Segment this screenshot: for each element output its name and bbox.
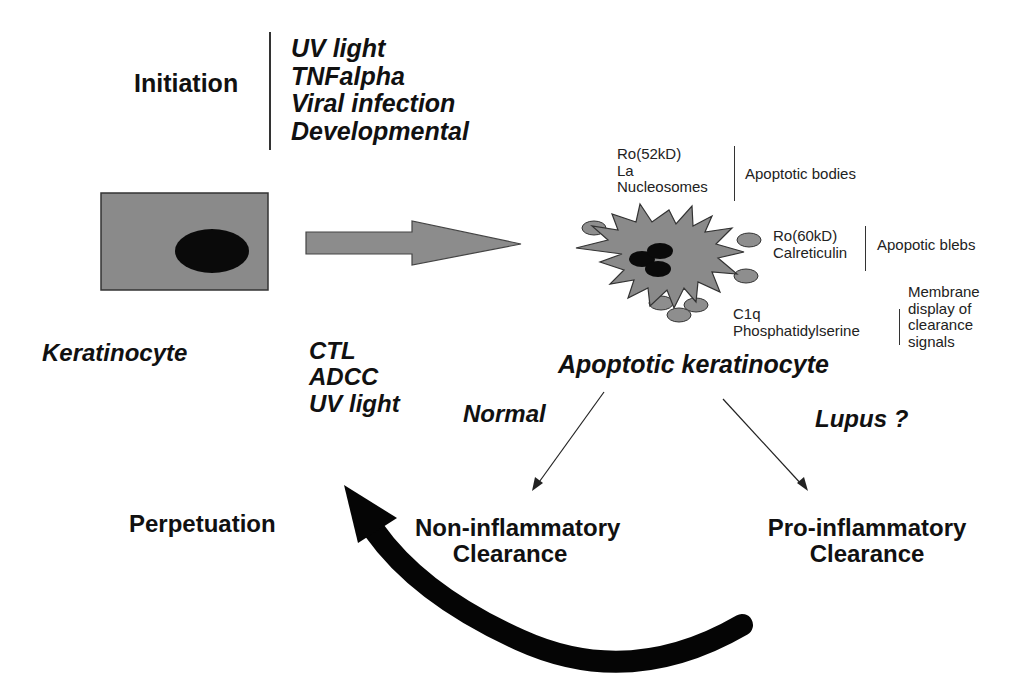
lupus-arrow — [723, 399, 808, 491]
apoptosis-inducers: CTL ADCC UV light — [309, 338, 400, 417]
trigger-item: Viral infection — [291, 90, 469, 118]
trigger-item: Developmental — [291, 118, 469, 146]
apoptotic-blebs-divider — [865, 226, 866, 271]
outcome-line: Non-inflammatory — [415, 515, 605, 541]
apoptotic-bodies-items: Ro(52kD) La Nucleosomes — [617, 146, 708, 196]
apoptotic-blebs-label: Apopotic blebs — [877, 236, 975, 253]
perpetuation-arrow — [344, 485, 742, 662]
membrane-label-line: display of — [908, 301, 980, 318]
initiation-triggers: UV light TNFalpha Viral infection Develo… — [291, 35, 469, 145]
apoptotic-bodies-label: Apoptotic bodies — [745, 165, 856, 182]
outcome-line: Clearance — [762, 541, 972, 567]
apoptotic-keratinocyte-label: Apoptotic keratinocyte — [558, 350, 829, 379]
antigen-item: Ro(60kD) — [773, 228, 847, 245]
inducer-item: ADCC — [309, 364, 400, 390]
antigen-item: La — [617, 163, 708, 180]
perpetuation-label: Perpetuation — [129, 510, 276, 538]
outcome-line: Clearance — [415, 541, 605, 567]
outcome-line: Pro-inflammatory — [762, 515, 972, 541]
inducer-item: UV light — [309, 391, 400, 417]
membrane-label-line: clearance — [908, 317, 980, 334]
keratinocyte-label: Keratinocyte — [42, 339, 187, 367]
antigen-item: Ro(52kD) — [617, 146, 708, 163]
antigen-item: Calreticulin — [773, 245, 847, 262]
antigen-item: C1q — [733, 306, 860, 323]
membrane-label: Membrane display of clearance signals — [908, 284, 980, 350]
keratinocyte-cell — [101, 193, 268, 290]
non-inflammatory-clearance: Non-inflammatory Clearance — [415, 515, 605, 568]
transition-arrow — [306, 221, 521, 265]
trigger-item: UV light — [291, 35, 469, 63]
lupus-pathway-label: Lupus ? — [815, 405, 908, 433]
inducer-item: CTL — [309, 338, 400, 364]
keratinocyte-nucleus — [175, 229, 249, 273]
normal-pathway-label: Normal — [463, 400, 546, 428]
antigen-item: Nucleosomes — [617, 179, 708, 196]
membrane-divider — [899, 309, 900, 345]
membrane-label-line: signals — [908, 334, 980, 351]
initiation-label: Initiation — [134, 69, 238, 98]
pro-inflammatory-clearance: Pro-inflammatory Clearance — [762, 515, 972, 568]
apoptotic-bodies-divider — [734, 146, 735, 201]
antigen-item: Phosphatidylserine — [733, 323, 860, 340]
apoptotic-blebs-items: Ro(60kD) Calreticulin — [773, 228, 847, 261]
initiation-divider — [269, 32, 271, 150]
membrane-label-line: Membrane — [908, 284, 980, 301]
trigger-item: TNFalpha — [291, 63, 469, 91]
membrane-items: C1q Phosphatidylserine — [733, 306, 860, 339]
